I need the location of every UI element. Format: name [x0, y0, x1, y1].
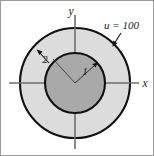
x-axis-label: x	[141, 77, 148, 89]
inner-radius-label: 1	[82, 65, 88, 77]
y-axis-label: y	[67, 5, 74, 18]
figure-frame: y x u = 100 2 1	[0, 0, 154, 156]
outer-radius-label: 2	[42, 53, 48, 65]
annulus-diagram: y x u = 100 2 1	[1, 1, 154, 156]
boundary-condition-label: u = 100	[104, 19, 139, 31]
